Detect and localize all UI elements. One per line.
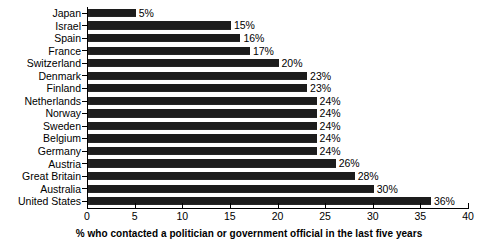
bar-value-label: 16% xyxy=(243,33,264,44)
bar-value-label: 26% xyxy=(339,158,360,169)
bar-value-label: 20% xyxy=(282,58,303,69)
bar-value-label: 24% xyxy=(320,133,341,144)
bar xyxy=(88,72,307,80)
y-axis-tick xyxy=(82,126,87,127)
bar-row: Sweden24% xyxy=(0,120,498,133)
bar-row: Japan5% xyxy=(0,7,498,20)
bar xyxy=(88,109,317,117)
y-axis-tick xyxy=(82,63,87,64)
bar-container: 30% xyxy=(88,185,374,193)
bar-row: France17% xyxy=(0,45,498,58)
bar-container: 24% xyxy=(88,134,317,142)
x-axis-tick xyxy=(87,203,88,208)
x-axis-tick xyxy=(135,203,136,208)
bar-value-label: 15% xyxy=(234,20,255,31)
bar-container: 23% xyxy=(88,72,307,80)
bar xyxy=(88,47,250,55)
bar-container: 16% xyxy=(88,34,240,42)
y-axis-tick xyxy=(82,151,87,152)
x-axis-tick xyxy=(468,203,469,208)
category-label: Denmark xyxy=(0,70,81,83)
x-axis-tick-label: 20 xyxy=(258,210,298,223)
category-label: Australia xyxy=(0,183,81,196)
y-axis-tick xyxy=(82,188,87,189)
x-axis-tick-label: 15 xyxy=(210,210,250,223)
x-axis-tick-labels: 0510152025303540 xyxy=(0,210,498,224)
y-axis-tick xyxy=(82,101,87,102)
bar xyxy=(88,159,336,167)
category-label: Belgium xyxy=(0,132,81,145)
bar xyxy=(88,134,317,142)
bar xyxy=(88,147,317,155)
category-label: Austria xyxy=(0,158,81,171)
category-label: Sweden xyxy=(0,120,81,133)
bar xyxy=(88,172,355,180)
bar-value-label: 23% xyxy=(310,83,331,94)
bar-value-label: 5% xyxy=(139,8,154,19)
category-label: Great Britain xyxy=(0,170,81,183)
bar-row: Great Britain28% xyxy=(0,170,498,183)
bar-container: 15% xyxy=(88,21,231,29)
bar-container: 23% xyxy=(88,84,307,92)
x-axis-tick-label: 10 xyxy=(162,210,202,223)
plot-area: Japan5%Israel15%Spain16%France17%Switzer… xyxy=(0,0,498,210)
bar-value-label: 28% xyxy=(358,171,379,182)
y-axis-tick xyxy=(82,25,87,26)
bar-row: Israel15% xyxy=(0,20,498,33)
bar-container: 24% xyxy=(88,147,317,155)
x-axis-tick-label: 30 xyxy=(353,210,393,223)
bar-value-label: 17% xyxy=(253,46,274,57)
bar-value-label: 24% xyxy=(320,146,341,157)
bar xyxy=(88,97,317,105)
bar-value-label: 24% xyxy=(320,96,341,107)
x-axis-tick-label: 0 xyxy=(67,210,107,223)
x-axis-title: % who contacted a politician or governme… xyxy=(0,228,498,239)
bar-row: Germany24% xyxy=(0,145,498,158)
y-axis-tick xyxy=(82,88,87,89)
category-label: Finland xyxy=(0,82,81,95)
y-axis-tick xyxy=(82,75,87,76)
bar-row: Denmark23% xyxy=(0,70,498,83)
x-axis-ticks xyxy=(0,203,498,209)
y-axis-tick xyxy=(82,201,87,202)
bar-row: Spain16% xyxy=(0,32,498,45)
bar-row: Finland23% xyxy=(0,82,498,95)
bar xyxy=(88,34,240,42)
y-axis-tick xyxy=(82,13,87,14)
y-axis-tick xyxy=(82,138,87,139)
x-axis-tick xyxy=(420,203,421,208)
bar xyxy=(88,84,307,92)
bar xyxy=(88,185,374,193)
category-label: Israel xyxy=(0,20,81,33)
bar-row: Australia30% xyxy=(0,183,498,196)
x-axis-tick xyxy=(325,203,326,208)
bar-container: 20% xyxy=(88,59,279,67)
bar-row: Netherlands24% xyxy=(0,95,498,108)
bar-value-label: 30% xyxy=(377,184,398,195)
category-label: Japan xyxy=(0,7,81,20)
bar-row: Norway24% xyxy=(0,107,498,120)
bar-value-label: 24% xyxy=(320,108,341,119)
x-axis-tick xyxy=(278,203,279,208)
bar-value-label: 23% xyxy=(310,71,331,82)
y-axis-tick xyxy=(82,113,87,114)
bar-container: 26% xyxy=(88,159,336,167)
bar-row: Austria26% xyxy=(0,158,498,171)
bar-row: Switzerland20% xyxy=(0,57,498,70)
bar-chart: Japan5%Israel15%Spain16%France17%Switzer… xyxy=(0,0,498,251)
bar-container: 24% xyxy=(88,97,317,105)
x-axis-tick-label: 35 xyxy=(400,210,440,223)
x-axis-tick xyxy=(373,203,374,208)
y-axis-tick xyxy=(82,50,87,51)
x-axis-tick-label: 25 xyxy=(305,210,345,223)
bar xyxy=(88,9,136,17)
category-label: Netherlands xyxy=(0,95,81,108)
bar xyxy=(88,21,231,29)
bar xyxy=(88,122,317,130)
category-label: Spain xyxy=(0,32,81,45)
bar-container: 28% xyxy=(88,172,355,180)
category-label: Germany xyxy=(0,145,81,158)
x-axis-tick-label: 40 xyxy=(448,210,488,223)
bar-container: 24% xyxy=(88,122,317,130)
x-axis-tick xyxy=(230,203,231,208)
